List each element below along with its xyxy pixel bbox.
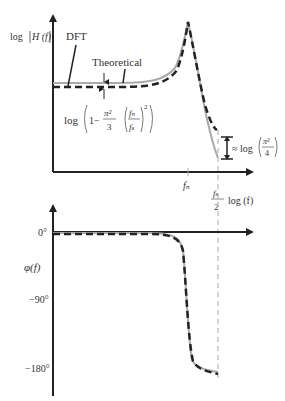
magnitude-y-label-h: H (f) [31,31,52,43]
magnitude-plot: log H (f) DFT Theoretical log 1− π² 3 fₙ… [10,16,277,212]
svg-text:4: 4 [265,149,269,158]
theoretical-leader-line [123,69,125,83]
svg-text:π²: π² [104,108,112,118]
offset-formula: log 1− π² 3 fₙ fₛ 2 [64,103,153,133]
theoretical-legend-label: Theoretical [92,56,142,68]
diagram-canvas: log H (f) DFT Theoretical log 1− π² 3 fₙ… [0,0,285,401]
svg-text:1−: 1− [89,115,100,126]
magnitude-y-label-log: log [10,31,23,42]
phase-tick-180: −180° [25,363,50,374]
svg-text:fₛ: fₛ [129,122,135,132]
dft-phase-curve [53,234,218,374]
svg-text:≈ log: ≈ log [232,143,253,154]
svg-text:fₙ: fₙ [129,108,136,118]
phase-y-label: φ(f) [24,261,41,274]
phase-tick-0: 0° [38,227,47,238]
dft-legend-label: DFT [66,30,87,42]
nyquist-gap-label: ≈ log π² 4 [232,137,277,158]
phase-tick-90: −90° [29,294,49,305]
svg-text:2: 2 [144,103,148,111]
magnitude-x-axis-label: log (f) [228,195,253,207]
dft-leader-line [68,45,76,86]
theoretical-phase-curve [53,233,218,372]
svg-text:3: 3 [107,122,112,132]
svg-text:π²: π² [263,137,270,146]
svg-text:log: log [64,114,79,126]
fn-tick-label: fₙ [183,180,190,191]
